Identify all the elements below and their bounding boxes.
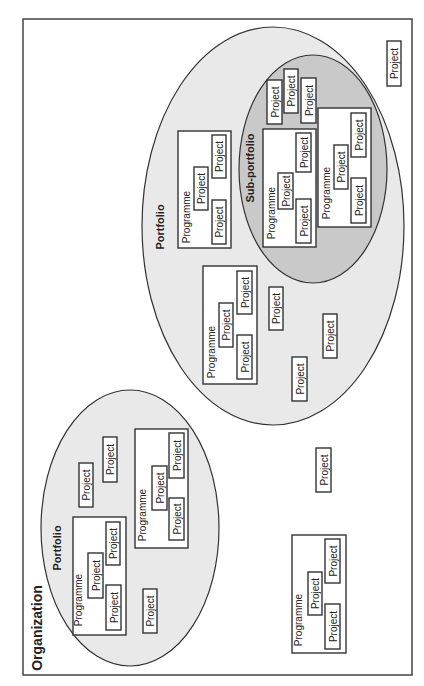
programme-box: Programme Project Project Project (263, 129, 316, 247)
programme-box: Programme Project Project Project (292, 535, 346, 653)
project-label: Project (196, 173, 207, 204)
project-label: Project (155, 472, 166, 503)
project-label: Project (286, 75, 297, 106)
portfolio-small-label: Portfolio (51, 525, 63, 570)
organization-label: Organization (29, 585, 45, 671)
project-label: Project (91, 560, 102, 591)
project-label: Project (221, 309, 232, 340)
project-label: Project (328, 611, 339, 642)
project-label: Project (295, 363, 306, 394)
programme-label: Programme (321, 166, 332, 219)
programme-label: Programme (206, 325, 217, 378)
project-label: Project (354, 119, 365, 150)
programme-box: Programme Project Project Project (203, 266, 257, 384)
project-label: Project (304, 85, 315, 116)
project-label: Project (299, 137, 310, 168)
project-label: Project (319, 454, 330, 485)
project-label: Project (389, 48, 400, 79)
programme-box: Programme Project Project Project (178, 131, 231, 248)
project-label: Project (336, 151, 347, 182)
organization-diagram: Organization Portfolio Programme Project… (0, 0, 424, 686)
project-label: Project (109, 592, 120, 623)
programme-label: Programme (181, 190, 192, 243)
project-label: Project (271, 293, 282, 324)
project-label: Project (105, 444, 116, 475)
programme-box: Programme Project Project Project (318, 108, 371, 227)
project-label: Project (325, 320, 336, 351)
programme-label: Programme (266, 186, 277, 239)
programme-box: Programme Project Project Project (135, 429, 188, 548)
project-label: Project (81, 469, 92, 500)
project-label: Project (310, 578, 321, 609)
project-label: Project (299, 205, 310, 236)
project-label: Project (270, 86, 281, 117)
project-label: Project (240, 341, 251, 372)
project-label: Project (214, 141, 225, 172)
project-label: Project (281, 175, 292, 206)
project-label: Project (328, 545, 339, 576)
project-label: Project (108, 528, 119, 559)
portfolio-large-label: Portfolio (154, 204, 166, 249)
programme-box: Programme Project Project Project (73, 517, 126, 635)
project-label: Project (172, 440, 183, 471)
sub-portfolio-label: Sub-portfolio (244, 133, 256, 202)
project-label: Project (354, 185, 365, 216)
programme-label: Programme (137, 488, 148, 541)
project-label: Project (145, 595, 156, 626)
programme-label: Programme (293, 593, 304, 646)
portfolio-small-ellipse (41, 390, 219, 666)
project-label: Project (214, 206, 225, 237)
project-label: Project (172, 503, 183, 534)
project-label: Project (240, 277, 251, 308)
programme-label: Programme (73, 573, 84, 626)
